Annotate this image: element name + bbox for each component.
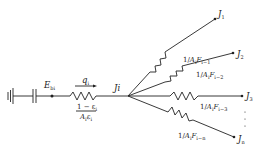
eb-node-dot [51, 95, 54, 98]
branch-jn-wire-a [128, 96, 168, 112]
continuation-dot [244, 125, 245, 126]
j3-resistance-label: 1/AiFi−3 [200, 103, 227, 112]
junction-label: Ji [112, 83, 120, 93]
j2-node-dot [232, 52, 235, 55]
j1-label: J1 [216, 9, 225, 20]
branch-j1-resistor [150, 52, 166, 72]
jn-node-dot [233, 136, 236, 139]
branch-j1-wire-b [165, 19, 215, 52]
j3-node-dot [241, 95, 244, 98]
branch-j3: J3 1/AiFi−3 [128, 91, 253, 112]
jn-resistance-label: 1/AiFi−n [178, 132, 206, 141]
continuation-dot [244, 118, 245, 119]
branch-j1-wire-a [128, 72, 150, 96]
surface-resistance-fraction: 1 − εi Aiεi [76, 103, 97, 122]
fraction-numerator: 1 − εi [77, 103, 97, 112]
j1-node-dot [214, 18, 217, 21]
branch-j1: J1 1/AiFi−1 [128, 9, 225, 96]
surface-resistor [70, 92, 98, 100]
branch-j2-resistor [165, 66, 183, 82]
continuation-dots [244, 111, 245, 126]
heat-flow-arrowhead-icon [93, 85, 97, 88]
eb-label: Ebi [43, 80, 55, 91]
continuation-dot [244, 111, 245, 112]
j2-label: J2 [235, 49, 244, 60]
j3-label: J3 [244, 91, 253, 102]
branch-j2-wire-a [128, 82, 165, 96]
branch-jn: Jn 1/AiFi−n [128, 96, 245, 145]
fraction-denominator: Aiεi [79, 113, 92, 122]
heat-flow-label: qi [82, 75, 89, 86]
jn-label: Jn [236, 134, 245, 145]
radiation-network-diagram: Ebi qi 1 − εi Aiεi Ji J1 1/AiFi−1 [0, 0, 260, 152]
battery-symbol [8, 88, 36, 104]
j2-resistance-label: 1/AiFi−2 [196, 71, 223, 80]
branch-j3-resistor [170, 92, 198, 100]
branch-jn-resistor [168, 107, 193, 121]
